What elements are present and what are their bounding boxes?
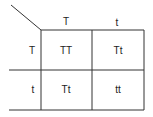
corner-diagonal — [11, 5, 41, 30]
cell-1-1: TT — [60, 46, 72, 56]
column-header-2: t — [116, 18, 119, 28]
cell-2-2: tt — [115, 85, 121, 95]
cell-1-2: Tt — [114, 46, 123, 56]
row-header-1: T — [29, 46, 35, 56]
row-header-2: t — [32, 85, 35, 95]
punnett-grid — [0, 0, 153, 117]
cell-2-1: Tt — [62, 85, 71, 95]
column-header-1: T — [63, 17, 69, 27]
